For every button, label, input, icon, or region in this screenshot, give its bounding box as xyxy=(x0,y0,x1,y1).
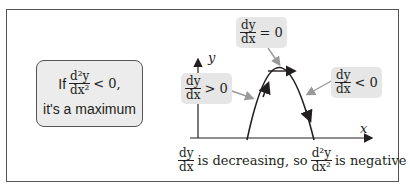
label-decreasing: dy dx < 0 xyxy=(331,67,382,98)
label-increasing: dy dx > 0 xyxy=(181,73,232,104)
right-pointer xyxy=(308,80,333,94)
y-axis-label: y xyxy=(208,50,215,65)
x-axis-label: x xyxy=(360,121,367,136)
label-stationary: dy dx = 0 xyxy=(236,17,287,48)
conclusion-text: dy dx is decreasing, so d²y dx² is negat… xyxy=(178,147,406,174)
curve xyxy=(247,68,314,141)
top-pointer xyxy=(268,48,279,64)
increasing-arrow xyxy=(263,84,268,97)
